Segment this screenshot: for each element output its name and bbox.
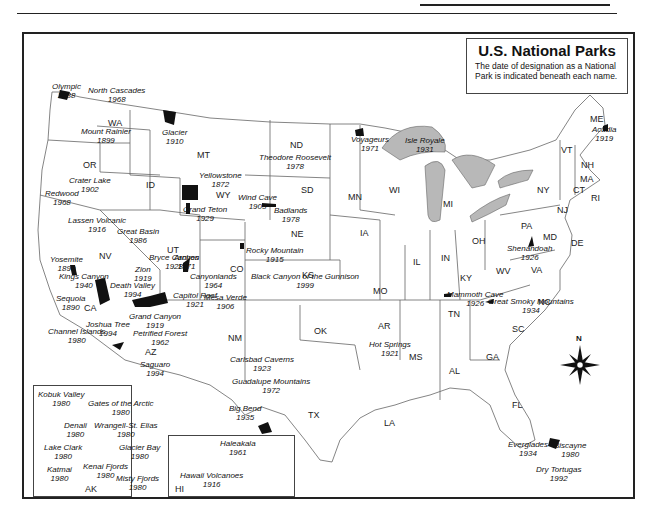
park-year: 1926 (507, 254, 552, 263)
park-label: Great Smoky Mountains1934 (488, 298, 574, 315)
park-label: Black Canyon of the Gunnison1999 (251, 273, 359, 290)
park-year: 1980 (48, 337, 105, 346)
park-year: 1971 (174, 263, 199, 272)
park-year: 1980 (44, 453, 82, 462)
park-year: 1915 (246, 256, 303, 265)
compass-north-label: N (576, 334, 582, 343)
state-label-nm: NM (228, 333, 242, 343)
state-label-wi: WI (389, 185, 400, 195)
park-year: 1971 (351, 145, 389, 154)
park-label: Grand Canyon1919 (129, 313, 181, 330)
state-label-de: DE (571, 238, 584, 248)
park-year: 1899 (81, 137, 131, 146)
park-year: 1986 (117, 237, 159, 246)
park-label: Misty Fjords1980 (116, 475, 159, 492)
state-label-oh: OH (472, 236, 486, 246)
state-label-az: AZ (145, 347, 157, 357)
state-label-sc: SC (512, 324, 525, 334)
state-label-mt: MT (197, 150, 210, 160)
state-label-ca: CA (84, 303, 97, 313)
park-year: 1962 (133, 339, 187, 348)
compass-rose-icon (560, 345, 600, 385)
map-subtitle: The date of designation as a National Pa… (475, 61, 623, 81)
park-label: Redwood1968 (45, 190, 79, 207)
park-label: Haleakala1961 (220, 440, 256, 457)
park-label: Glacier1910 (162, 129, 187, 146)
park-year: 1964 (190, 282, 237, 291)
park-year: 1934 (488, 307, 574, 316)
state-label-la: LA (384, 418, 395, 428)
park-label: Big Bend1935 (229, 405, 261, 422)
park-year: 1978 (274, 216, 307, 225)
park-year: 1910 (162, 138, 187, 147)
park-year: 1980 (554, 451, 586, 460)
state-label-me: ME (590, 114, 604, 124)
park-year: 1980 (38, 400, 84, 409)
park-year: 1968 (88, 96, 145, 105)
park-year: 1968 (45, 199, 79, 208)
park-label: Denali1980 (64, 422, 87, 439)
state-label-mi: MI (443, 199, 453, 209)
state-label-nh: NH (581, 160, 594, 170)
park-label: North Cascades1968 (88, 87, 145, 104)
park-label: Channel Islands1980 (48, 328, 105, 345)
park-year: 1980 (88, 409, 154, 418)
state-label-ak: AK (85, 484, 97, 494)
park-label: Glacier Bay1980 (119, 444, 160, 461)
state-label-in: IN (441, 253, 450, 263)
park-label: Theodore Roosevelt1978 (259, 154, 331, 171)
state-label-ms: MS (409, 352, 423, 362)
state-label-ga: GA (486, 352, 499, 362)
state-label-nj: NJ (557, 205, 568, 215)
park-label: Badlands1978 (274, 207, 307, 224)
park-label: Kobuk Valley1980 (38, 391, 84, 408)
park-year: 1872 (199, 181, 242, 190)
park-year: 1980 (47, 475, 72, 484)
park-label: Guadalupe Mountains1972 (232, 378, 310, 395)
state-label-vt: VT (561, 145, 573, 155)
park-label: Acadia1919 (592, 126, 616, 143)
park-label: Biscayne1980 (554, 442, 586, 459)
state-label-or: OR (83, 160, 97, 170)
park-label: Death Valley1994 (110, 282, 155, 299)
park-year: 1980 (64, 431, 87, 440)
state-label-ar: AR (378, 321, 391, 331)
park-year: 1934 (508, 450, 548, 459)
park-label: Saguaro1994 (140, 361, 170, 378)
state-label-ri: RI (591, 193, 600, 203)
park-year: 1978 (259, 163, 331, 172)
park-year: 1903 (238, 203, 277, 212)
park-year: 1935 (229, 414, 261, 423)
park-label: Hawaii Volcanoes1916 (180, 472, 243, 489)
state-label-md: MD (543, 232, 557, 242)
state-label-ma: MA (580, 174, 594, 184)
state-label-tx: TX (308, 410, 320, 420)
park-label: Canyonlands1964 (190, 273, 237, 290)
park-label: Wind Cave1903 (238, 194, 277, 211)
state-label-al: AL (449, 366, 460, 376)
state-label-il: IL (413, 257, 421, 267)
park-label: Mesa Verde1906 (204, 294, 247, 311)
park-label: Yosemite1890 (50, 256, 83, 273)
state-label-ct: CT (573, 185, 585, 195)
park-year: 1994 (110, 291, 155, 300)
state-label-mo: MO (373, 286, 388, 296)
state-label-wv: WV (496, 266, 511, 276)
state-label-sd: SD (301, 185, 314, 195)
park-label: Rocky Mountain1915 (246, 247, 303, 264)
park-label: Hot Springs1921 (369, 341, 411, 358)
park-label: Petrified Forest1962 (133, 330, 187, 347)
state-label-ky: KY (460, 273, 472, 283)
park-year: 1921 (369, 350, 411, 359)
park-label: Yellowstone1872 (199, 172, 242, 189)
state-label-fl: FL (512, 400, 523, 410)
park-label: Katmai1980 (47, 466, 72, 483)
park-label: Mount Rainier1899 (81, 128, 131, 145)
state-label-ny: NY (537, 185, 550, 195)
park-label: Lake Clark1980 (44, 444, 82, 461)
park-label: Sequoia1890 (56, 295, 85, 312)
state-label-id: ID (146, 180, 155, 190)
park-label: Kings Canyon1940 (59, 273, 109, 290)
park-label: Dry Tortugas1992 (536, 466, 582, 483)
park-label: Great Basin1986 (117, 228, 159, 245)
